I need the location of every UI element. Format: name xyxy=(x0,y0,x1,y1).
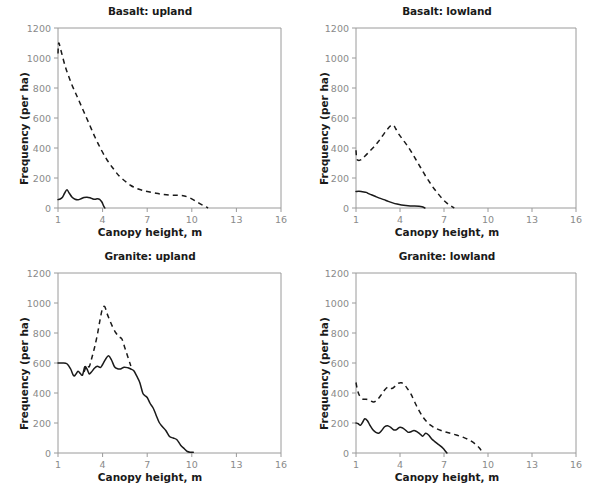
series-line-dashed xyxy=(356,125,454,208)
x-tick-label: 1 xyxy=(55,459,61,470)
x-tick-label: 7 xyxy=(441,214,447,225)
y-tick-label: 600 xyxy=(331,358,349,369)
x-axis-title: Canopy height, m xyxy=(0,226,300,238)
y-tick-label: 200 xyxy=(331,173,349,184)
panel-granite-upland: Granite: upland Frequency (per ha) 02004… xyxy=(0,245,300,489)
plot-area: 020040060080010001200147101316 xyxy=(300,0,594,245)
y-tick-label: 200 xyxy=(33,173,51,184)
x-tick-label: 4 xyxy=(100,214,106,225)
y-tick-label: 1200 xyxy=(27,268,51,279)
x-tick-label: 7 xyxy=(144,459,150,470)
series-line-dashed xyxy=(84,306,131,372)
x-tick-label: 10 xyxy=(482,214,494,225)
panel-basalt-lowland: Basalt: lowland Frequency (per ha) 02004… xyxy=(300,0,594,245)
plot-area: 020040060080010001200147101316 xyxy=(0,245,300,489)
y-tick-label: 800 xyxy=(331,83,349,94)
plot-area: 020040060080010001200147101316 xyxy=(300,245,594,489)
x-tick-label: 7 xyxy=(441,459,447,470)
panel-basalt-upland: Basalt: upland Frequency (per ha) 020040… xyxy=(0,0,300,245)
series-line-dashed xyxy=(356,383,483,454)
y-tick-label: 1200 xyxy=(325,23,349,34)
y-tick-label: 800 xyxy=(331,328,349,339)
y-tick-label: 0 xyxy=(45,448,51,459)
x-tick-label: 13 xyxy=(230,214,242,225)
y-tick-label: 1200 xyxy=(325,268,349,279)
y-tick-label: 1000 xyxy=(27,53,51,64)
series-line-solid xyxy=(58,190,105,208)
y-tick-label: 600 xyxy=(33,358,51,369)
y-tick-label: 400 xyxy=(331,143,349,154)
x-tick-label: 4 xyxy=(397,459,403,470)
x-tick-label: 10 xyxy=(482,459,494,470)
x-tick-label: 4 xyxy=(100,459,106,470)
series-line-solid xyxy=(356,419,447,453)
x-tick-label: 1 xyxy=(353,214,359,225)
y-tick-label: 400 xyxy=(33,143,51,154)
y-tick-label: 600 xyxy=(331,113,349,124)
y-tick-label: 1000 xyxy=(325,53,349,64)
x-tick-label: 10 xyxy=(186,459,198,470)
x-axis-title: Canopy height, m xyxy=(0,471,300,483)
series-line-solid xyxy=(58,356,193,453)
y-tick-label: 200 xyxy=(331,418,349,429)
y-tick-label: 800 xyxy=(33,328,51,339)
x-tick-label: 16 xyxy=(275,214,287,225)
series-line-solid xyxy=(356,191,425,208)
panel-granite-lowland: Granite: lowland Frequency (per ha) 0200… xyxy=(300,245,594,489)
x-tick-label: 16 xyxy=(570,459,582,470)
x-axis-title: Canopy height, m xyxy=(300,226,594,238)
x-axis-title: Canopy height, m xyxy=(300,471,594,483)
x-tick-label: 1 xyxy=(55,214,61,225)
y-tick-label: 800 xyxy=(33,83,51,94)
y-tick-label: 400 xyxy=(331,388,349,399)
x-tick-label: 4 xyxy=(397,214,403,225)
y-tick-label: 600 xyxy=(33,113,51,124)
y-tick-label: 0 xyxy=(343,203,349,214)
y-tick-label: 1000 xyxy=(325,298,349,309)
x-tick-label: 16 xyxy=(570,214,582,225)
series-line-dashed xyxy=(58,43,208,208)
x-tick-label: 13 xyxy=(526,459,538,470)
y-tick-label: 0 xyxy=(343,448,349,459)
plot-area: 020040060080010001200147101316 xyxy=(0,0,300,245)
y-tick-label: 1200 xyxy=(27,23,51,34)
y-tick-label: 200 xyxy=(33,418,51,429)
x-tick-label: 1 xyxy=(353,459,359,470)
x-tick-label: 7 xyxy=(144,214,150,225)
y-tick-label: 0 xyxy=(45,203,51,214)
y-tick-label: 400 xyxy=(33,388,51,399)
y-tick-label: 1000 xyxy=(27,298,51,309)
x-tick-label: 16 xyxy=(275,459,287,470)
x-tick-label: 13 xyxy=(230,459,242,470)
x-tick-label: 13 xyxy=(526,214,538,225)
figure-canvas: Basalt: upland Frequency (per ha) 020040… xyxy=(0,0,594,489)
x-tick-label: 10 xyxy=(186,214,198,225)
